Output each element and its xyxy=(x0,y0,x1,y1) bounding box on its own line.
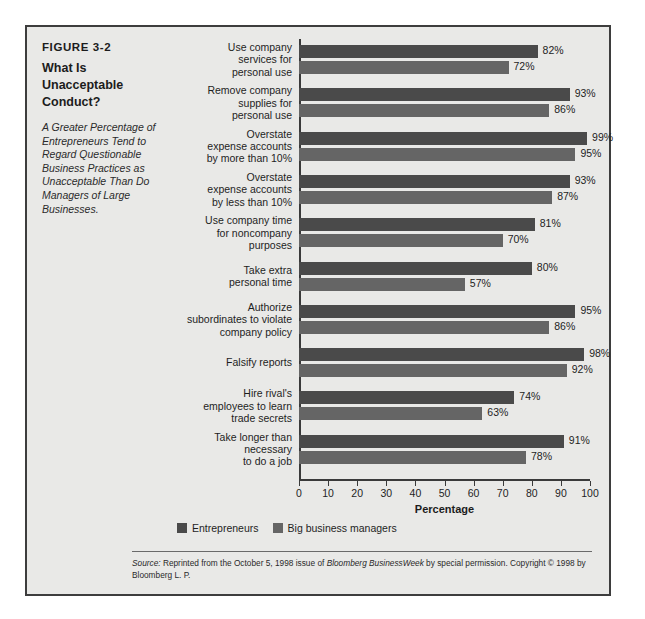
bar-row: 98% xyxy=(299,348,597,361)
category-label: Use company timefor noncompanypurposes xyxy=(177,214,292,251)
category-label-line: to do a job xyxy=(177,455,292,467)
x-axis-tick xyxy=(503,481,504,486)
figure-number: FIGURE 3-2 xyxy=(42,41,170,53)
category-label-line: employees to learn xyxy=(177,400,292,412)
category-label-line: company policy xyxy=(177,326,292,338)
bar-value-label: 95% xyxy=(580,304,601,316)
bar-0 xyxy=(299,348,584,361)
bar-value-label: 63% xyxy=(487,406,508,418)
bar-chart: Use companyservices forpersonal useRemov… xyxy=(177,39,597,491)
bar-1 xyxy=(299,148,575,161)
legend-label: Entrepreneurs xyxy=(192,522,259,534)
source-note: Source: Reprinted from the October 5, 19… xyxy=(132,558,602,581)
category-label: Authorizesubordinates to violatecompany … xyxy=(177,301,292,338)
bar-value-label: 86% xyxy=(554,320,575,332)
bar-row: 95% xyxy=(299,305,597,318)
category-label-line: services for xyxy=(177,53,292,65)
category-label: Overstateexpense accountsby less than 10… xyxy=(177,171,292,208)
bar-value-label: 87% xyxy=(557,190,578,202)
category-label: Take extrapersonal time xyxy=(177,264,292,289)
bar-0 xyxy=(299,391,514,404)
category-label: Remove companysupplies forpersonal use xyxy=(177,84,292,121)
category-label-line: Remove company xyxy=(177,84,292,96)
x-axis-tick-label: 80 xyxy=(526,487,538,499)
bar-group: 82%72% xyxy=(299,45,597,77)
category-label-line: by more than 10% xyxy=(177,152,292,164)
x-axis-tick-label: 90 xyxy=(555,487,567,499)
bar-0 xyxy=(299,305,575,318)
bar-value-label: 57% xyxy=(470,277,491,289)
bar-value-label: 99% xyxy=(592,131,613,143)
x-axis-tick xyxy=(474,481,475,486)
category-label-line: expense accounts xyxy=(177,140,292,152)
figure-box: FIGURE 3-2 What Is Unacceptable Conduct?… xyxy=(25,25,611,596)
bar-row: 80% xyxy=(299,262,597,275)
category-label-line: Use company xyxy=(177,41,292,53)
bar-value-label: 98% xyxy=(589,347,610,359)
bar-value-label: 74% xyxy=(519,390,540,402)
bar-0 xyxy=(299,132,587,145)
category-label-line: Take longer than xyxy=(177,431,292,443)
category-label-column: Use companyservices forpersonal useRemov… xyxy=(177,39,292,479)
figure-title: What Is Unacceptable Conduct? xyxy=(42,60,170,111)
bar-row: 81% xyxy=(299,218,597,231)
category-label-line: Authorize xyxy=(177,301,292,313)
bars-area: 82%72%93%86%99%95%93%87%81%70%80%57%95%8… xyxy=(299,39,597,479)
bar-row: 74% xyxy=(299,391,597,404)
x-axis-tick-label: 0 xyxy=(296,487,302,499)
bar-row: 78% xyxy=(299,451,597,464)
bar-row: 86% xyxy=(299,321,597,334)
bar-1 xyxy=(299,407,482,420)
bar-1 xyxy=(299,191,552,204)
category-label-line: subordinates to violate xyxy=(177,313,292,325)
bar-group: 74%63% xyxy=(299,391,597,423)
bar-value-label: 95% xyxy=(580,147,601,159)
source-prefix: Source: xyxy=(132,558,161,568)
category-label-line: Hire rival's xyxy=(177,387,292,399)
x-axis-tick xyxy=(386,481,387,486)
category-label-line: supplies for xyxy=(177,97,292,109)
x-axis-tick-label: 40 xyxy=(410,487,422,499)
source-publication: Bloomberg BusinessWeek xyxy=(327,558,424,568)
bar-value-label: 92% xyxy=(572,363,593,375)
bar-row: 93% xyxy=(299,88,597,101)
bar-group: 98%92% xyxy=(299,348,597,380)
bar-1 xyxy=(299,278,465,291)
bar-group: 95%86% xyxy=(299,305,597,337)
bar-value-label: 78% xyxy=(531,450,552,462)
category-label-line: necessary xyxy=(177,443,292,455)
category-label-line: for noncompany xyxy=(177,227,292,239)
bar-group: 91%78% xyxy=(299,435,597,467)
source-divider xyxy=(132,551,592,552)
bar-row: 57% xyxy=(299,278,597,291)
source-text-1: Reprinted from the October 5, 1998 issue… xyxy=(161,558,327,568)
bar-row: 93% xyxy=(299,175,597,188)
category-label-line: trade secrets xyxy=(177,412,292,424)
bar-value-label: 80% xyxy=(537,261,558,273)
category-label: Use companyservices forpersonal use xyxy=(177,41,292,78)
bar-group: 81%70% xyxy=(299,218,597,250)
x-axis-tick-label: 20 xyxy=(351,487,363,499)
category-label-line: Overstate xyxy=(177,128,292,140)
x-axis-tick xyxy=(561,481,562,486)
x-axis-tick xyxy=(328,481,329,486)
x-axis-tick xyxy=(590,481,591,486)
bar-0 xyxy=(299,262,532,275)
category-label: Hire rival'semployees to learntrade secr… xyxy=(177,387,292,424)
category-label-line: personal use xyxy=(177,66,292,78)
bar-0 xyxy=(299,88,570,101)
legend-swatch-icon xyxy=(273,523,283,533)
figure-caption: FIGURE 3-2 What Is Unacceptable Conduct?… xyxy=(42,41,170,216)
bar-value-label: 82% xyxy=(543,44,564,56)
bar-row: 86% xyxy=(299,104,597,117)
x-axis-tick xyxy=(415,481,416,486)
category-label-line: Falsify reports xyxy=(177,356,292,368)
bar-0 xyxy=(299,175,570,188)
bar-value-label: 93% xyxy=(575,174,596,186)
bar-group: 80%57% xyxy=(299,262,597,294)
category-label: Overstateexpense accountsby more than 10… xyxy=(177,128,292,165)
bar-row: 99% xyxy=(299,132,597,145)
bar-1 xyxy=(299,364,567,377)
x-axis-tick-label: 50 xyxy=(439,487,451,499)
bar-group: 99%95% xyxy=(299,132,597,164)
